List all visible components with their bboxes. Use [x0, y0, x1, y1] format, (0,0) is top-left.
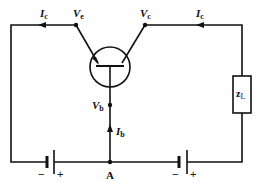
label-ic-left: Ic	[40, 8, 48, 21]
emitter-lead	[76, 25, 98, 63]
node-a	[108, 160, 112, 164]
battery-left-minus: −	[38, 169, 44, 180]
circuit-wires	[0, 0, 258, 183]
right-top-wire	[145, 25, 242, 76]
arrow-ic-right-icon	[196, 22, 204, 28]
left-wire	[11, 25, 76, 162]
ve-node	[74, 23, 78, 27]
label-ve: Ve	[73, 8, 84, 21]
label-ib: Ib	[116, 126, 125, 139]
label-vb: Vb	[92, 100, 104, 113]
circuit-diagram: Ic Ve Vc Ic Vb Ib A zL − + − +	[0, 0, 258, 183]
battery-left	[47, 150, 54, 174]
arrow-ic-left-icon	[38, 22, 46, 28]
emitter-arrow-icon	[92, 57, 99, 65]
collector-lead	[122, 25, 145, 63]
right-bottom-wire	[187, 113, 242, 162]
vc-node	[143, 23, 147, 27]
arrow-ib-icon	[107, 124, 113, 132]
label-node-a: A	[106, 170, 114, 181]
vb-node	[108, 103, 112, 107]
battery-right-plus: +	[190, 169, 196, 180]
battery-left-plus: +	[57, 169, 63, 180]
battery-right-minus: −	[172, 169, 178, 180]
label-ic-right: Ic	[196, 8, 204, 21]
label-vc: Vc	[140, 8, 151, 21]
battery-right	[179, 150, 187, 174]
label-load: zL	[236, 89, 245, 101]
